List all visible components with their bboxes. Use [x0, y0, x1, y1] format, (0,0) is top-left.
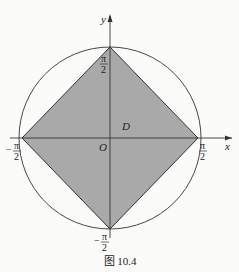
svg-text:π: π	[200, 140, 205, 151]
y-axis-label: y	[100, 13, 106, 25]
tick-label-left: − π 2	[6, 140, 21, 162]
x-axis-label: x	[224, 140, 230, 152]
svg-text:2: 2	[101, 64, 106, 75]
svg-text:−: −	[94, 235, 100, 246]
figure-caption: 图 10.4	[104, 255, 138, 267]
svg-text:π: π	[102, 231, 107, 242]
svg-text:2: 2	[14, 151, 19, 162]
tick-label-right: π 2	[199, 140, 207, 162]
svg-text:−: −	[6, 144, 12, 155]
origin-label: O	[99, 141, 107, 153]
y-axis-arrow-icon	[108, 14, 113, 22]
svg-text:2: 2	[200, 151, 205, 162]
region-label: D	[121, 120, 130, 132]
svg-text:2: 2	[102, 242, 107, 253]
svg-text:π: π	[14, 140, 19, 151]
svg-text:π: π	[101, 53, 106, 64]
diagram: y x O D π 2 π 2 − π 2 − π 2 图 10.4	[0, 0, 239, 272]
tick-label-bottom: − π 2	[94, 231, 109, 253]
